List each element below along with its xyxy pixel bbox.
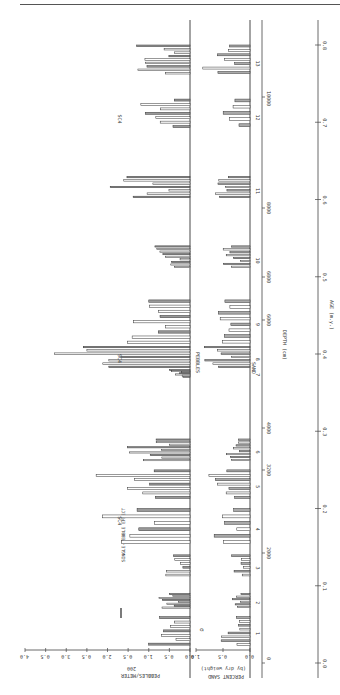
- pebble-bar: [160, 315, 190, 317]
- sand-bar: [241, 593, 250, 594]
- sc4-annotations: SC4SC4SC4: [117, 115, 123, 526]
- pebble-bar: [160, 617, 190, 619]
- pebble-bar: [160, 121, 190, 123]
- pebble-tick-label: 0.5: [164, 654, 173, 660]
- sand-bar: [220, 196, 250, 197]
- pebble-bar: [128, 447, 190, 448]
- sand-bar: [229, 49, 250, 51]
- sand-bar: [231, 323, 250, 326]
- sand-bar: [239, 621, 250, 623]
- pebbles-axis-break-label: 200: [127, 666, 136, 672]
- sand-bar: [217, 350, 250, 351]
- sand-bar: [223, 249, 250, 250]
- sand-bar: [238, 606, 250, 607]
- pebble-bar: [166, 326, 190, 328]
- pebble-bar: [156, 439, 190, 440]
- sand-bar: [215, 193, 250, 194]
- sand-bar: [223, 111, 250, 114]
- pebble-bar: [145, 112, 190, 114]
- interval-label: 8: [255, 358, 261, 361]
- age-tick-label: 0.0: [322, 659, 328, 668]
- sand-bar: [242, 574, 250, 576]
- pebble-bar: [102, 515, 190, 518]
- pebble-bar: [96, 474, 190, 476]
- pebble-bar: [137, 509, 190, 512]
- sand-bar: [232, 459, 250, 460]
- sand-bar: [228, 176, 250, 177]
- sand-bar: [230, 45, 250, 47]
- depth-tick-label: 8000: [266, 202, 272, 214]
- pebble-bar: [147, 193, 190, 194]
- pebble-bar: [166, 72, 190, 74]
- interval-label: 1: [255, 632, 261, 635]
- pebble-bar: [145, 62, 190, 64]
- depth-axis-ticks: 020003200400060006800800010000: [262, 91, 272, 663]
- sand-bar: [231, 266, 250, 267]
- pebble-bar: [176, 639, 190, 641]
- sand-bar: [221, 353, 250, 354]
- sand-bar: [229, 118, 250, 121]
- interval-label: 12: [255, 115, 261, 121]
- sand-bar: [220, 317, 250, 320]
- pebble-bar: [158, 331, 190, 333]
- pebble-bar: [144, 460, 190, 461]
- age-axis-ticks: 0.00.10.20.30.40.50.60.70.8: [315, 41, 328, 668]
- age-tick-label: 0.2: [322, 505, 328, 514]
- sand-bar: [227, 190, 250, 191]
- sand-bar: [237, 596, 250, 597]
- sand-bar: [218, 366, 250, 367]
- pebble-bar: [167, 603, 190, 604]
- sand-bar: [235, 496, 250, 498]
- pebble-bar: [166, 574, 190, 576]
- pebble-bar: [149, 300, 190, 302]
- sand-bar: [234, 257, 250, 258]
- sand-bar: [218, 183, 250, 184]
- interval-label: 13: [255, 60, 261, 66]
- pebble-bar: [155, 496, 190, 498]
- sand-bar: [232, 555, 250, 557]
- pebble-bar: [110, 186, 190, 187]
- sand-bar: [227, 453, 250, 454]
- sand-bar: [223, 515, 250, 518]
- sand-bar: [230, 456, 250, 457]
- pebble-bar: [169, 190, 190, 191]
- age-tick-label: 0.5: [322, 273, 328, 282]
- sand-bar: [225, 521, 250, 524]
- depth-tick-label: 4000: [266, 422, 272, 434]
- pebble-bar: [173, 595, 190, 596]
- sand-bar: [219, 180, 250, 181]
- pebble-bar: [172, 261, 190, 262]
- pebble-bar: [161, 634, 190, 636]
- sand-bar: [238, 624, 250, 626]
- sc4-annotation: SC4: [117, 516, 123, 525]
- pebble-bar: [150, 483, 190, 485]
- pebble-bar: [138, 69, 190, 71]
- sand-bar: [234, 570, 250, 572]
- pebble-bar: [154, 470, 190, 472]
- age-tick-label: 0.6: [322, 196, 328, 205]
- sand-bar: [217, 54, 250, 56]
- sand-bar: [225, 58, 250, 60]
- pebble-bar: [127, 488, 190, 490]
- pebble-bar: [174, 99, 190, 101]
- sand-bar: [233, 599, 250, 600]
- pebble-bar: [141, 103, 190, 105]
- pebble-bar: [127, 341, 190, 343]
- pebble-bar: [103, 363, 190, 364]
- age-axis-label: AGE (m.y.): [328, 300, 335, 330]
- sand-tick-label: 0.0: [245, 654, 254, 660]
- pebble-bar: [181, 563, 190, 565]
- interval-label: 9: [255, 323, 261, 326]
- depth-tick-label: 10000: [266, 91, 272, 106]
- pebble-bar: [150, 454, 190, 455]
- sc4-annotation: SC4: [117, 115, 123, 124]
- sand-bar: [227, 470, 250, 472]
- sand-bar: [240, 260, 250, 261]
- sand-bar: [225, 300, 250, 303]
- sand-bar: [209, 474, 250, 476]
- pebble-bar: [160, 251, 190, 252]
- pebble-bar: [162, 457, 190, 458]
- pebble-bar: [122, 541, 190, 544]
- sand-bar: [233, 105, 250, 108]
- pebble-bar: [162, 599, 190, 600]
